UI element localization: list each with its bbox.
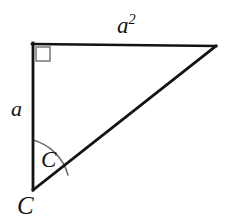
triangle-edge-hypotenuse (33, 46, 216, 190)
label-angle-inner: C (41, 148, 56, 171)
label-top-edge-base: a (117, 13, 129, 38)
label-top-edge: a2 (117, 12, 136, 37)
label-vertex-bottom: C (17, 193, 34, 218)
label-left-edge: a (11, 98, 22, 120)
right-angle-marker-icon (36, 47, 50, 61)
triangle-drawing-canvas (0, 0, 227, 222)
label-top-edge-exponent: 2 (129, 11, 136, 27)
triangle-edge-top (32, 44, 216, 46)
triangle-figure: a2 a C C (0, 0, 227, 222)
